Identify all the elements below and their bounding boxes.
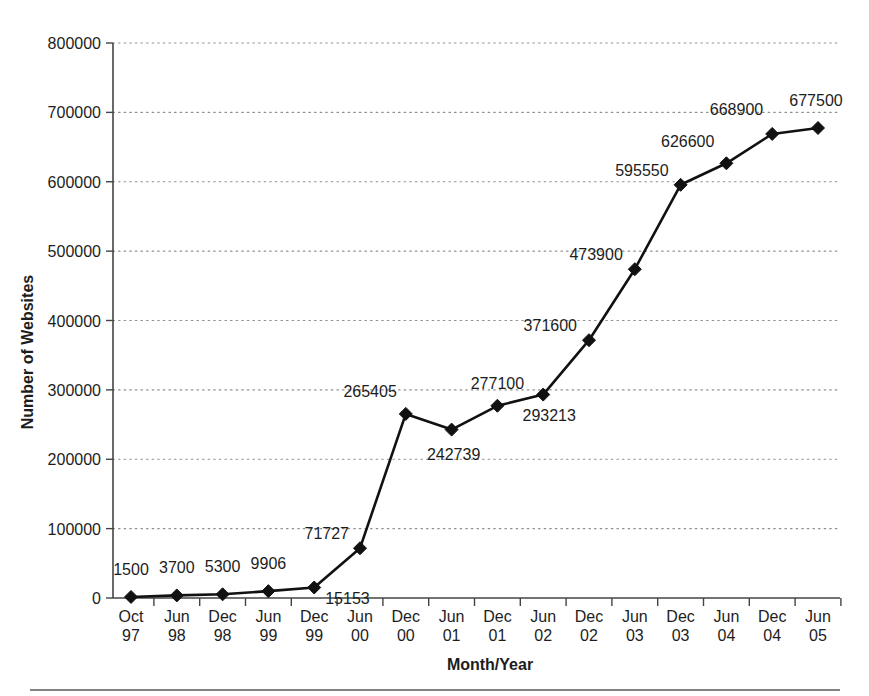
x-tick-label-month: Oct xyxy=(119,608,144,625)
y-tick-label: 700000 xyxy=(48,104,101,121)
data-point-label: 473900 xyxy=(569,246,622,263)
y-tick-label: 200000 xyxy=(48,451,101,468)
data-point-markers-group xyxy=(125,121,825,603)
x-tick-label-year: 99 xyxy=(260,627,278,644)
data-point-label: 5300 xyxy=(205,558,241,575)
x-tick-label-year: 98 xyxy=(168,627,186,644)
x-tick-label-month: Dec xyxy=(483,608,511,625)
x-tick-label-year: 00 xyxy=(397,627,415,644)
y-axis-title: Number of Websites xyxy=(19,275,36,430)
data-point-label: 293213 xyxy=(523,407,576,424)
data-point-marker xyxy=(125,590,138,603)
x-tick-label-year: 03 xyxy=(626,627,644,644)
x-tick-label-month: Jun xyxy=(439,608,465,625)
x-tick-label-year: 01 xyxy=(489,627,507,644)
data-point-label: 371600 xyxy=(524,317,577,334)
data-point-label: 677500 xyxy=(789,92,842,109)
x-tick-label-year: 98 xyxy=(214,627,232,644)
x-tick-label-month: Dec xyxy=(208,608,236,625)
x-tick-label-month: Jun xyxy=(622,608,648,625)
x-tick-label-year: 05 xyxy=(809,627,827,644)
data-point-label: 668900 xyxy=(710,101,763,118)
x-tick-label-year: 03 xyxy=(672,627,690,644)
x-tick-marks-group xyxy=(154,598,841,606)
x-tick-label-month: Dec xyxy=(666,608,694,625)
data-point-marker xyxy=(216,588,229,601)
x-tick-label-month: Dec xyxy=(392,608,420,625)
y-tick-label: 400000 xyxy=(48,313,101,330)
data-point-label: 15153 xyxy=(325,590,370,607)
x-tick-label-year: 02 xyxy=(534,627,552,644)
y-tick-label: 300000 xyxy=(48,382,101,399)
data-point-marker xyxy=(262,585,275,598)
data-point-label: 595550 xyxy=(615,162,668,179)
data-point-marker xyxy=(720,157,733,170)
y-tick-label: 100000 xyxy=(48,521,101,538)
data-point-label: 242739 xyxy=(427,446,480,463)
line-chart-figure: 0100000200000300000400000500000600000700… xyxy=(0,0,869,696)
x-tick-label-month: Dec xyxy=(300,608,328,625)
data-point-labels-group: 1500370053009906151537172726540524273927… xyxy=(113,92,843,608)
y-tick-label: 600000 xyxy=(48,174,101,191)
x-tick-label-year: 01 xyxy=(443,627,461,644)
x-tick-label-year: 04 xyxy=(718,627,736,644)
data-point-marker xyxy=(674,178,687,191)
x-tick-label-month: Jun xyxy=(256,608,282,625)
x-tick-label-month: Jun xyxy=(164,608,190,625)
x-tick-label-year: 02 xyxy=(580,627,598,644)
data-point-marker xyxy=(628,263,641,276)
y-tick-marks-group xyxy=(106,43,113,598)
data-point-label: 265405 xyxy=(343,383,396,400)
data-point-label: 9906 xyxy=(251,555,287,572)
data-point-marker xyxy=(491,399,504,412)
y-tick-label: 800000 xyxy=(48,35,101,52)
x-tick-label-year: 97 xyxy=(122,627,140,644)
series-line-websites xyxy=(131,128,818,597)
x-tick-label-month: Jun xyxy=(714,608,740,625)
x-tick-label-year: 99 xyxy=(305,627,323,644)
data-point-marker xyxy=(399,407,412,420)
data-point-marker xyxy=(766,127,779,140)
chart-canvas: 0100000200000300000400000500000600000700… xyxy=(0,0,869,696)
x-tick-label-month: Jun xyxy=(347,608,373,625)
data-point-label: 71727 xyxy=(305,525,350,542)
data-point-marker xyxy=(170,589,183,602)
x-axis-title: Month/Year xyxy=(447,656,533,673)
data-point-label: 626600 xyxy=(661,133,714,150)
x-tick-label-month: Jun xyxy=(805,608,831,625)
y-tick-labels-group: 0100000200000300000400000500000600000700… xyxy=(48,35,101,607)
y-tick-label: 0 xyxy=(92,590,101,607)
x-tick-label-month: Jun xyxy=(530,608,556,625)
x-tick-label-month: Dec xyxy=(758,608,786,625)
y-tick-label: 500000 xyxy=(48,243,101,260)
data-point-label: 1500 xyxy=(113,561,149,578)
data-point-marker xyxy=(812,121,825,134)
x-tick-label-year: 04 xyxy=(763,627,781,644)
data-point-marker xyxy=(445,423,458,436)
x-tick-label-year: 00 xyxy=(351,627,369,644)
data-point-label: 3700 xyxy=(159,559,195,576)
x-tick-labels-group: Oct97Jun98Dec98Jun99Dec99Jun00Dec00Jun01… xyxy=(119,608,831,644)
data-point-label: 277100 xyxy=(471,375,524,392)
x-tick-label-month: Dec xyxy=(575,608,603,625)
